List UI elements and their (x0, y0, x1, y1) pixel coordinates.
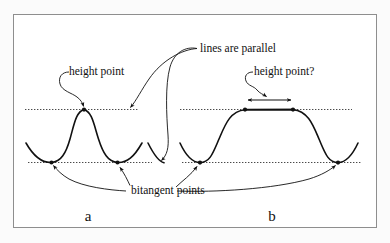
left-bitangent-point-marker-1 (49, 160, 53, 164)
bitangent-leader-a-right (120, 168, 130, 186)
height-point-left-label: height point (69, 65, 125, 78)
height-point-left-leader (59, 72, 83, 106)
figure-page: height point a lines are parallel (0, 0, 390, 243)
left-curve (26, 110, 142, 163)
left-bitangent-point-marker-2 (115, 160, 119, 164)
right-bitangent-point-marker-1 (198, 161, 202, 165)
figure-frame: height point a lines are parallel (13, 14, 377, 228)
panel-label-b: b (268, 208, 276, 224)
right-height-point-marker-2 (291, 108, 295, 112)
right-panel-group: height point? b (180, 65, 361, 224)
bitangent-points-label: bitangent points (131, 184, 205, 197)
geometry-diagram: height point a lines are parallel (14, 15, 376, 227)
lines-are-parallel-group: lines are parallel (131, 42, 277, 161)
right-bitangent-point-marker-2 (336, 161, 340, 165)
parallel-leader-lower (162, 48, 198, 160)
bitangent-leader-a-left (54, 166, 127, 192)
height-point-right-label: height point? (254, 65, 314, 78)
lines-are-parallel-label: lines are parallel (200, 42, 276, 55)
parallel-leader-upper (131, 49, 198, 108)
right-curve (180, 110, 358, 163)
panel-label-a: a (85, 208, 92, 224)
bitangent-points-group: bitangent points (54, 166, 336, 198)
left-height-point-marker (82, 108, 86, 112)
right-height-point-marker-1 (243, 108, 247, 112)
